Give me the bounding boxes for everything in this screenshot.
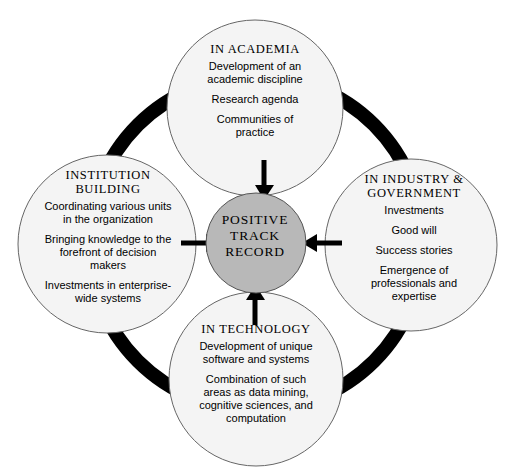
node-circle-academia[interactable] [167, 20, 343, 196]
node-circle-industry[interactable] [325, 159, 497, 331]
diagram-graphics [0, 0, 510, 472]
node-circle-center[interactable] [206, 193, 306, 293]
node-circle-institution[interactable] [18, 155, 196, 333]
diagram-canvas: IN ACADEMIA Development of an academic d… [0, 0, 510, 472]
